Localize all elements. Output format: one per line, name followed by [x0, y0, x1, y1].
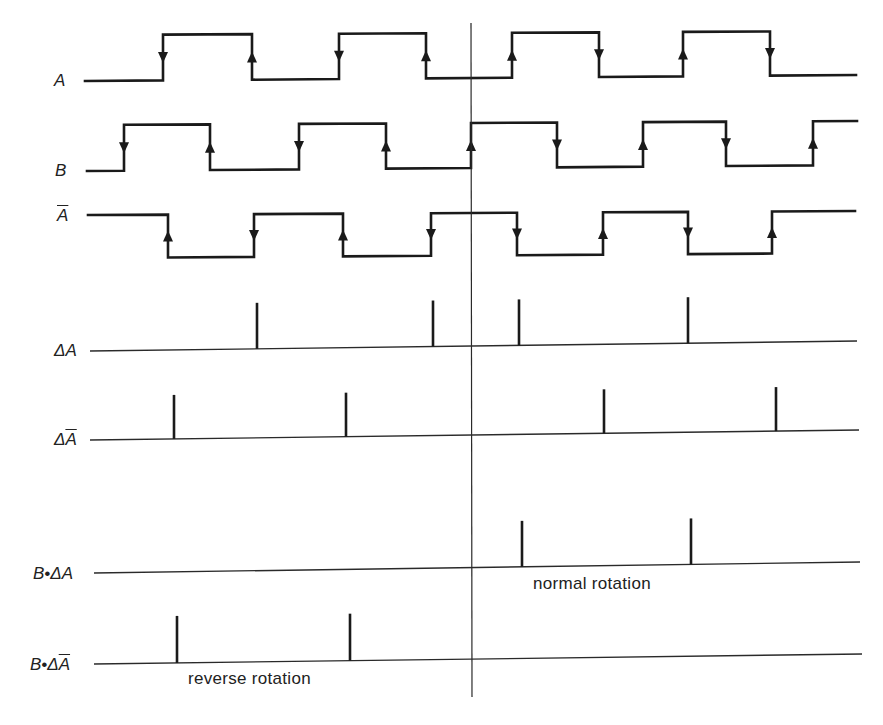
- edge-arrow-up-icon: [381, 141, 391, 152]
- edge-arrow-down-icon: [683, 227, 693, 238]
- edge-arrow-up-icon: [678, 49, 688, 60]
- pulse-row-B_delta_A: [94, 518, 860, 573]
- edge-arrow-down-icon: [158, 52, 168, 63]
- signal-label-b: B: [55, 162, 66, 179]
- edge-arrow-up-icon: [338, 230, 348, 241]
- edge-arrow-down-icon: [249, 230, 259, 241]
- pulse-baseline: [90, 430, 859, 440]
- edge-arrow-up-icon: [767, 227, 777, 238]
- signal-label-delta-a: ΔA: [54, 342, 77, 359]
- edge-arrow-up-icon: [421, 50, 431, 61]
- signal-label-a: A: [54, 72, 65, 89]
- edge-arrow-up-icon: [507, 50, 517, 61]
- signal-label-a-bar: A: [57, 207, 68, 224]
- edge-arrow-down-icon: [294, 141, 304, 152]
- pulse-baseline: [94, 562, 860, 573]
- timing-diagram: [0, 0, 883, 725]
- signal-label-b-delta-a-bar: B•ΔA: [30, 656, 70, 673]
- pulse-row-B_delta_A_bar: [94, 614, 862, 664]
- edge-arrow-down-icon: [721, 138, 731, 149]
- edge-arrow-up-icon: [247, 51, 257, 62]
- edge-arrow-down-icon: [334, 51, 344, 62]
- edge-arrow-up-icon: [163, 231, 173, 242]
- edge-arrow-down-icon: [765, 48, 775, 59]
- pulse-baseline: [90, 341, 857, 351]
- pulse-baseline: [94, 654, 862, 664]
- waveform-B: [87, 121, 857, 171]
- edge-arrow-down-icon: [552, 139, 562, 150]
- edge-arrow-down-icon: [119, 142, 129, 153]
- edge-arrow-up-icon: [205, 142, 215, 153]
- signal-label-delta-a-bar: ΔA: [54, 431, 77, 448]
- edge-arrow-down-icon: [512, 228, 522, 239]
- pulse-row-delta_A: [90, 297, 857, 351]
- caption-reverse-rotation: reverse rotation: [188, 670, 311, 687]
- edge-arrow-down-icon: [594, 49, 604, 60]
- edge-arrow-up-icon: [638, 139, 648, 150]
- edge-arrow-up-icon: [808, 138, 818, 149]
- pulse-rows: [90, 297, 862, 664]
- signal-label-b-delta-a: B•ΔA: [33, 565, 73, 582]
- edge-arrow-down-icon: [426, 229, 436, 240]
- edge-arrow-up-icon: [598, 228, 608, 239]
- caption-normal-rotation: normal rotation: [533, 575, 651, 592]
- pulse-row-delta_A_bar: [90, 387, 859, 440]
